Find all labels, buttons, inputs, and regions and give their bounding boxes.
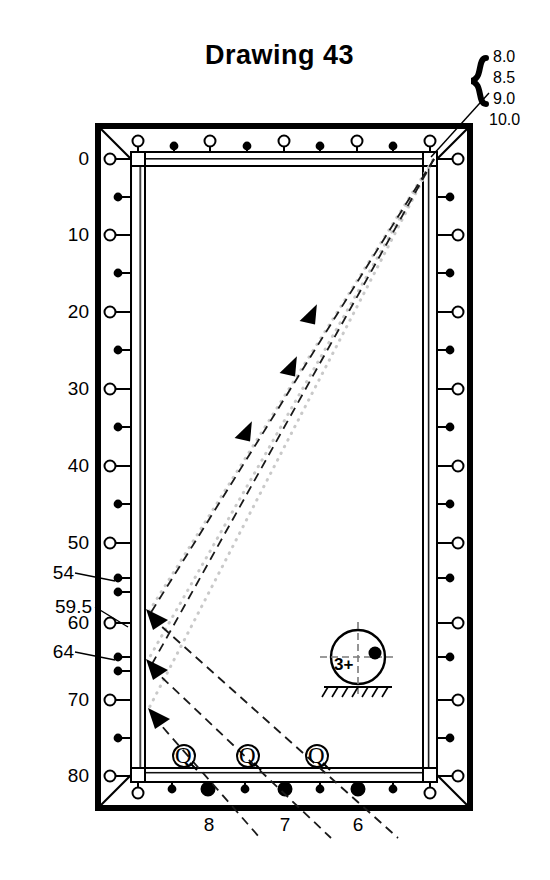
bracket-symbol bbox=[471, 58, 486, 104]
right-wall-nodes bbox=[437, 154, 464, 782]
dashed-trajectories-upper bbox=[150, 159, 434, 664]
trajectory-arrowheads-lower bbox=[146, 609, 170, 729]
left-axis-label-70: 70 bbox=[55, 689, 89, 711]
q-marker-label-2: Q bbox=[239, 743, 256, 769]
device-center-dot bbox=[369, 647, 382, 660]
bracket-label-2: 9.0 bbox=[493, 90, 515, 108]
left-wall-nodes bbox=[105, 154, 132, 782]
device-symbol bbox=[320, 622, 396, 697]
left-axis-callout-64: 64 bbox=[40, 641, 74, 663]
bracket-label-3: 10.0 bbox=[489, 111, 520, 129]
trajectory-arrowheads-upper bbox=[233, 304, 319, 443]
bottom-axis-label-8: 8 bbox=[198, 814, 220, 836]
bracket-label-0: 8.0 bbox=[493, 48, 515, 66]
corner-gussets bbox=[101, 129, 467, 805]
left-axis-label-20: 20 bbox=[55, 301, 89, 323]
q-marker-label-3: Q bbox=[308, 743, 325, 769]
bottom-wall-nodes bbox=[133, 782, 436, 799]
page-title: Drawing 43 bbox=[205, 40, 354, 71]
outer-wall-frame bbox=[98, 126, 470, 808]
left-axis-callout-59-5: 59.5 bbox=[24, 596, 92, 618]
bracket-label-1: 8.5 bbox=[493, 69, 515, 87]
left-axis-label-80: 80 bbox=[55, 765, 89, 787]
left-axis-callout-54: 54 bbox=[40, 562, 74, 584]
bottom-axis-label-7: 7 bbox=[274, 814, 296, 836]
device-label: 3+ bbox=[334, 655, 353, 675]
left-axis-label-40: 40 bbox=[55, 455, 89, 477]
left-axis-label-0: 0 bbox=[63, 148, 89, 170]
technical-drawing-svg bbox=[0, 0, 550, 880]
q-marker-label-1: Q bbox=[175, 743, 192, 769]
ground-hatching bbox=[322, 687, 388, 697]
left-axis-label-50: 50 bbox=[55, 532, 89, 554]
drawing-canvas: Drawing 43 8.0 8.5 9.0 10.0 0 10 20 30 4… bbox=[0, 0, 550, 880]
left-axis-label-30: 30 bbox=[55, 378, 89, 400]
bottom-axis-label-6: 6 bbox=[347, 814, 369, 836]
top-wall-nodes bbox=[133, 136, 436, 153]
left-axis-label-10: 10 bbox=[55, 224, 89, 246]
dotted-trajectories bbox=[148, 160, 433, 710]
